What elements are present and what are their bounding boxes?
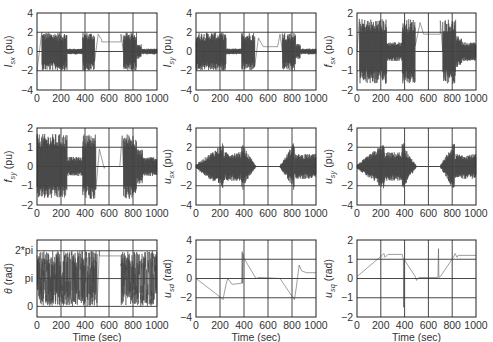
- x-tick-label: 0: [193, 319, 199, 331]
- x-tick-label: 0: [34, 92, 40, 104]
- x-tick-label: 800: [124, 207, 142, 219]
- y-tick-label: −2: [180, 291, 192, 303]
- x-tick-label: 800: [443, 207, 461, 219]
- x-tick-label: 600: [420, 319, 438, 331]
- y-tick-label: 0: [27, 300, 33, 312]
- y-tick-label: −2: [341, 179, 353, 191]
- subplot-fsx: −2−101202004006008001000fsx (pu): [322, 7, 488, 105]
- y-tick-label: 0: [186, 272, 192, 284]
- y-tick-label: −1: [341, 291, 353, 303]
- x-tick-label: 800: [283, 92, 301, 104]
- subplot-Isy: −4−202402004006008001000Isy (pu): [161, 7, 328, 105]
- x-tick-label: 1000: [304, 207, 328, 219]
- y-axis-label: fsy (pu): [2, 150, 17, 182]
- y-tick-label: −1: [341, 64, 353, 76]
- y-tick-label: 2: [347, 141, 353, 153]
- x-tick-label: 200: [52, 207, 70, 219]
- y-tick-label: 1: [347, 253, 353, 265]
- x-tick-label: 1000: [464, 319, 488, 331]
- x-tick-label: 0: [193, 92, 199, 104]
- y-axis-label: fsx (pu): [322, 35, 337, 67]
- y-tick-label: −2: [341, 84, 353, 96]
- y-tick-label: −4: [21, 84, 33, 96]
- x-tick-label: 800: [443, 319, 461, 331]
- x-tick-label: 400: [76, 92, 94, 104]
- y-tick-label: 1: [347, 26, 353, 38]
- y-tick-label: −2: [341, 311, 353, 323]
- x-tick-label: 200: [372, 92, 390, 104]
- subplot-usq: −2−101202004006008001000Time (sec)usq (r…: [322, 234, 488, 342]
- y-tick-label: 4: [347, 122, 353, 134]
- x-tick-label: 200: [372, 319, 390, 331]
- subplot-usd: −4−202402004006008001000Time (sec)usd (r…: [161, 234, 328, 342]
- x-tick-label: 600: [259, 319, 277, 331]
- y-tick-label: 0: [27, 160, 33, 172]
- y-tick-label: 2: [186, 253, 192, 265]
- x-tick-label: 400: [396, 319, 414, 331]
- subplot-usy: −4−202402004006008001000usy (pu): [322, 122, 488, 220]
- x-tick-label: 0: [193, 207, 199, 219]
- x-tick-label: 1000: [304, 319, 328, 331]
- x-tick-label: 400: [396, 207, 414, 219]
- x-tick-label: 0: [34, 319, 40, 331]
- y-tick-label: 0: [347, 160, 353, 172]
- y-tick-label: −2: [180, 179, 192, 191]
- y-tick-label: −4: [180, 84, 192, 96]
- x-tick-label: 600: [100, 207, 118, 219]
- y-tick-label: 2: [27, 26, 33, 38]
- y-axis-label: usy (pu): [322, 149, 337, 184]
- subplot-Isx: −4−202402004006008001000Isx (pu): [2, 7, 169, 105]
- x-tick-label: 400: [235, 207, 253, 219]
- y-tick-label: pi: [25, 272, 33, 284]
- subplot-fsy: −2−101202004006008001000fsy (pu): [2, 122, 169, 220]
- y-tick-label: −2: [21, 199, 33, 211]
- x-axis-label: Time (sec): [392, 331, 441, 342]
- x-axis-label: Time (sec): [72, 331, 121, 342]
- x-tick-label: 1000: [304, 92, 328, 104]
- x-tick-label: 400: [76, 207, 94, 219]
- y-tick-label: 2: [186, 141, 192, 153]
- x-tick-label: 600: [420, 92, 438, 104]
- subplot-usx: −4−202402004006008001000usx (pu): [161, 122, 328, 220]
- x-tick-label: 1000: [145, 92, 169, 104]
- y-axis-label: usx (pu): [161, 149, 176, 184]
- y-tick-label: 2*pi: [15, 244, 33, 256]
- y-axis-label: usq (rad): [322, 259, 337, 298]
- x-tick-label: 800: [283, 207, 301, 219]
- x-tick-label: 800: [283, 319, 301, 331]
- y-tick-label: 2: [186, 26, 192, 38]
- subplot-theta: 0pi2*pi02004006008001000Time (sec)θ (rad…: [2, 240, 169, 342]
- x-tick-label: 400: [235, 92, 253, 104]
- y-tick-label: −4: [180, 311, 192, 323]
- x-tick-label: 600: [420, 207, 438, 219]
- y-tick-label: −4: [180, 199, 192, 211]
- y-tick-label: 4: [186, 234, 192, 246]
- x-tick-label: 200: [52, 92, 70, 104]
- x-axis-label: Time (sec): [231, 331, 280, 342]
- x-tick-label: 600: [259, 92, 277, 104]
- x-tick-label: 200: [372, 207, 390, 219]
- x-tick-label: 1000: [464, 92, 488, 104]
- x-tick-label: 200: [52, 319, 70, 331]
- y-tick-label: 0: [347, 272, 353, 284]
- y-tick-label: −1: [21, 179, 33, 191]
- x-tick-label: 600: [100, 319, 118, 331]
- x-tick-label: 600: [100, 92, 118, 104]
- y-tick-label: 1: [27, 141, 33, 153]
- y-tick-label: 0: [186, 45, 192, 57]
- y-tick-label: 2: [27, 122, 33, 134]
- x-tick-label: 200: [211, 319, 229, 331]
- x-tick-label: 800: [443, 92, 461, 104]
- x-tick-label: 0: [34, 207, 40, 219]
- x-tick-label: 200: [211, 207, 229, 219]
- y-axis-label: usd (rad): [161, 259, 176, 298]
- y-tick-label: 2: [347, 7, 353, 19]
- y-tick-label: 0: [186, 160, 192, 172]
- x-tick-label: 0: [354, 207, 360, 219]
- x-tick-label: 1000: [145, 207, 169, 219]
- y-tick-label: −2: [21, 64, 33, 76]
- y-tick-label: 0: [27, 45, 33, 57]
- y-tick-label: −2: [180, 64, 192, 76]
- y-axis-label: Isx (pu): [2, 35, 17, 67]
- x-tick-label: 800: [124, 319, 142, 331]
